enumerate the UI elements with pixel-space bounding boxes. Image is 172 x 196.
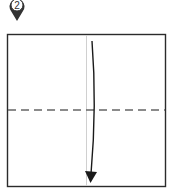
origami-diagram: 2 [0, 0, 172, 196]
step-number: 2 [14, 0, 20, 11]
step-marker: 2 [10, 0, 25, 21]
